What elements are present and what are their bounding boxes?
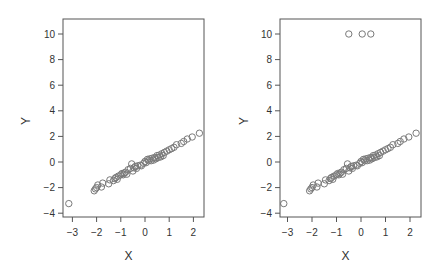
y-tick-label: −2	[44, 182, 56, 193]
y-axis-label: Y	[19, 117, 33, 125]
y-tick-label: 4	[49, 105, 55, 116]
y-tick-label: −2	[261, 182, 273, 193]
x-axis: −3−2−1012X	[67, 217, 197, 263]
x-tick-label: −3	[67, 227, 79, 238]
y-tick-label: 0	[266, 157, 272, 168]
data-point	[368, 31, 374, 37]
y-tick-label: 6	[49, 80, 55, 91]
x-tick-label: −2	[91, 227, 103, 238]
x-tick-label: 1	[383, 227, 389, 238]
plot-frame	[280, 19, 421, 217]
y-axis: −4−20246810Y	[237, 29, 280, 219]
y-tick-label: 10	[44, 29, 56, 40]
x-tick-label: −1	[331, 227, 343, 238]
y-tick-label: 6	[266, 80, 272, 91]
x-axis: −3−2−1012X	[282, 217, 413, 263]
plot-frame	[63, 19, 204, 217]
x-axis-label: X	[124, 249, 132, 263]
y-tick-label: −4	[44, 208, 56, 219]
data-point	[196, 130, 202, 136]
y-tick-label: 10	[261, 29, 273, 40]
data-point	[413, 130, 419, 136]
y-tick-label: −4	[261, 208, 273, 219]
x-tick-label: 1	[166, 227, 172, 238]
y-tick-label: 2	[49, 131, 55, 142]
x-tick-label: 2	[191, 227, 197, 238]
x-tick-label: −1	[115, 227, 127, 238]
scatter-panel-left: −3−2−1012X−4−20246810Y	[19, 19, 204, 263]
y-tick-label: 4	[266, 105, 272, 116]
data-point	[66, 200, 72, 206]
x-tick-label: 2	[407, 227, 413, 238]
x-tick-label: 0	[142, 227, 148, 238]
y-axis: −4−20246810Y	[19, 29, 63, 219]
data-point	[281, 200, 287, 206]
x-tick-label: −3	[282, 227, 294, 238]
x-tick-label: 0	[358, 227, 364, 238]
figure: −3−2−1012X−4−20246810Y −3−2−1012X−4−2024…	[0, 0, 441, 274]
data-points	[66, 130, 203, 207]
y-axis-label: Y	[237, 117, 251, 125]
y-tick-label: 2	[266, 131, 272, 142]
data-point	[346, 31, 352, 37]
x-tick-label: −2	[306, 227, 318, 238]
y-tick-label: 8	[266, 54, 272, 65]
y-tick-label: 8	[49, 54, 55, 65]
scatter-panel-right: −3−2−1012X−4−20246810Y	[237, 19, 421, 263]
y-tick-label: 0	[49, 157, 55, 168]
data-point	[359, 31, 365, 37]
x-axis-label: X	[341, 249, 349, 263]
data-points	[281, 31, 420, 207]
